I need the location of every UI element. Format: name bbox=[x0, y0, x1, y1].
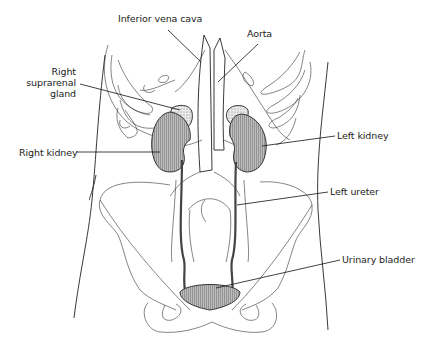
label-urinary-bladder: Urinary bladder bbox=[342, 254, 415, 265]
right-kidney-shape bbox=[152, 112, 191, 172]
label-inferior-vena-cava: Inferior vena cava bbox=[118, 13, 202, 24]
pelvis bbox=[99, 182, 312, 333]
rectum-shape bbox=[188, 199, 231, 262]
label-left-ureter: Left ureter bbox=[330, 186, 379, 197]
label-right-suprarenal-gland-line1: Right bbox=[20, 66, 76, 77]
leader-lines bbox=[76, 30, 340, 288]
label-right-kidney: Right kidney bbox=[19, 147, 78, 158]
urinary-system-diagram: Inferior vena cava Aorta Right suprarena… bbox=[0, 0, 426, 356]
label-right-suprarenal-gland-line3: gland bbox=[20, 88, 76, 99]
ribs bbox=[104, 45, 311, 145]
label-right-suprarenal-gland-line2: suprarenal bbox=[20, 77, 76, 88]
urinary-bladder-shape bbox=[180, 285, 240, 311]
label-left-kidney: Left kidney bbox=[337, 130, 388, 141]
anatomy-illustration bbox=[0, 0, 426, 356]
label-aorta: Aorta bbox=[247, 28, 272, 39]
label-right-suprarenal-gland: Right suprarenal gland bbox=[20, 66, 76, 99]
ureters bbox=[171, 160, 248, 296]
